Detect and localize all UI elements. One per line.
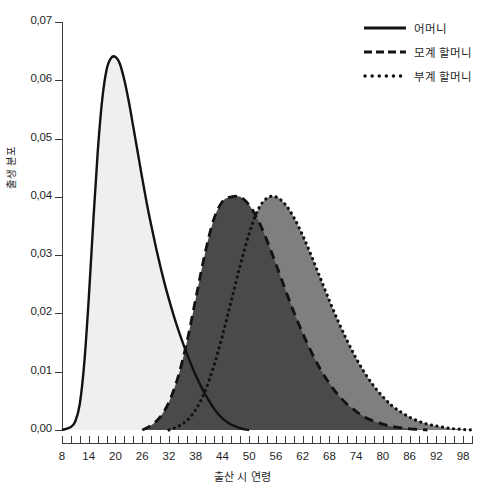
y-axis-tick-label: 0,01 [0,364,52,376]
x-axis-tick [427,436,428,443]
legend-item-mother[interactable]: 어머니 [362,16,484,40]
y-axis-tick [55,197,62,198]
x-axis-tick [187,436,188,443]
y-axis-tick-label: 0,00 [0,422,52,434]
x-axis-tick [312,436,313,443]
x-axis-tick [285,436,286,443]
chart-container: 0,000,010,020,030,040,050,060,07 출생 분포 8… [0,0,485,489]
legend-label-maternal-grandmother: 모계 할머니 [414,44,472,60]
x-axis-tick [303,436,304,443]
x-axis-tick [410,436,411,443]
x-axis-tick [374,436,375,443]
x-axis-tick [249,436,250,443]
y-axis-tick [55,255,62,256]
legend-item-paternal-grandmother[interactable]: 부계 할머니 [362,64,484,88]
x-axis-tick [160,436,161,443]
x-axis-tick [347,436,348,443]
x-axis-tick [214,436,215,443]
y-axis-tick-label: 0,07 [0,14,52,26]
y-axis-tick [55,430,62,431]
x-axis-tick [124,436,125,443]
x-axis-tick [151,436,152,443]
x-axis-tick [401,436,402,443]
x-axis-tick [178,436,179,443]
x-axis-tick [107,436,108,443]
y-axis-tick [55,313,62,314]
x-axis-title: 출산 시 연령 [0,468,485,484]
x-axis-tick [71,436,72,443]
x-axis-tick [356,436,357,443]
x-axis-tick [142,436,143,443]
x-axis-tick [383,436,384,443]
y-axis-tick [55,139,62,140]
y-axis-tick [55,80,62,81]
x-axis-tick [276,436,277,443]
x-axis-tick [222,436,223,443]
x-axis-tick [258,436,259,443]
x-axis-tick [365,436,366,443]
x-axis-tick [329,436,330,443]
x-axis-tick [320,436,321,443]
x-axis-tick [392,436,393,443]
x-axis-tick [80,436,81,443]
y-axis-tick-labels: 0,000,010,020,030,040,050,060,07 [0,0,52,489]
x-axis-tick [338,436,339,443]
legend: 어머니 모계 할머니 부계 할머니 [362,16,484,88]
y-axis-tick-label: 0,02 [0,305,52,317]
x-axis-tick [196,436,197,443]
x-axis-tick [240,436,241,443]
y-axis-tick [55,372,62,373]
y-axis-tick-label: 0,06 [0,72,52,84]
legend-item-maternal-grandmother[interactable]: 모계 할머니 [362,40,484,64]
x-axis-tick [115,436,116,443]
x-axis-tick [205,436,206,443]
x-axis-tick [472,436,473,443]
x-axis-tick [231,436,232,443]
x-axis-tick [62,436,63,443]
x-axis-tick [294,436,295,443]
x-axis-tick-label: 98 [443,450,483,462]
x-axis-tick [89,436,90,443]
y-axis-tick [55,22,62,23]
x-axis-tick [169,436,170,443]
x-axis-tick [463,436,464,443]
x-axis-tick [454,436,455,443]
legend-key-dotted-icon [362,69,408,83]
x-axis-tick [445,436,446,443]
x-axis-tick [98,436,99,443]
y-axis-title: 출생 분포 [3,142,18,194]
x-axis-tick [436,436,437,443]
x-axis-tick [267,436,268,443]
y-axis-tick-label: 0,03 [0,247,52,259]
x-axis-line [62,443,473,444]
legend-label-mother: 어머니 [414,20,447,36]
x-axis-tick [419,436,420,443]
legend-key-solid-icon [362,21,408,35]
legend-key-dashed-icon [362,45,408,59]
legend-label-paternal-grandmother: 부계 할머니 [414,68,472,84]
x-axis-tick [133,436,134,443]
